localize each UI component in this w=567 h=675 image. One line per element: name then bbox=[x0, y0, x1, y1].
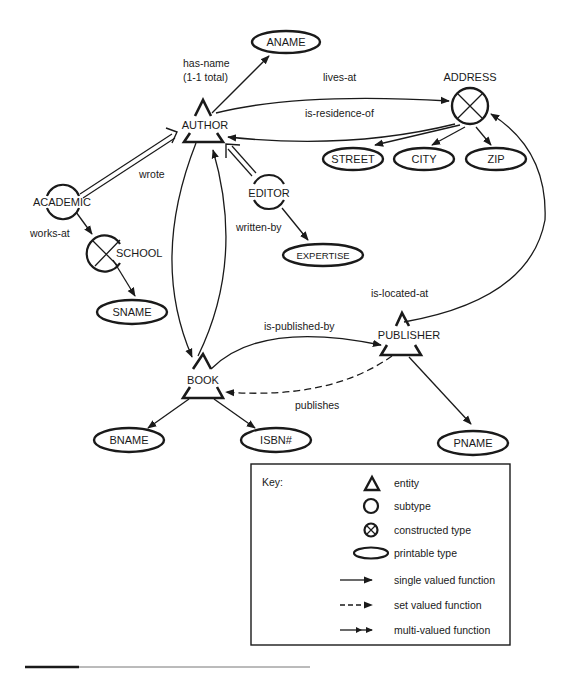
label-works-at: works-at bbox=[29, 227, 70, 239]
node-expertise-label: EXPERTISE bbox=[296, 250, 349, 261]
node-academic[interactable]: ACADEMIC bbox=[33, 185, 91, 220]
functional-data-model-diagram: has-name (1-1 total) lives-at is-residen… bbox=[0, 0, 567, 675]
legend-label-constructed-type: constructed type bbox=[394, 524, 471, 536]
edge-written-by bbox=[198, 150, 226, 356]
label-wrote: wrote bbox=[138, 168, 165, 180]
entity-icon bbox=[396, 313, 409, 326]
edge-address-city bbox=[432, 127, 465, 145]
edge-editor-expertise bbox=[282, 208, 308, 240]
node-street[interactable]: STREET bbox=[323, 148, 383, 170]
node-school[interactable]: SCHOOL bbox=[87, 236, 163, 272]
node-isbn-label: ISBN# bbox=[260, 434, 293, 446]
label-is-residence-of: is-residence-of bbox=[305, 107, 374, 119]
node-isbn[interactable]: ISBN# bbox=[241, 428, 311, 452]
subtype-icon bbox=[47, 185, 79, 196]
legend: Key: entity subtype constructed type pri… bbox=[251, 464, 510, 645]
subtype-arrows bbox=[80, 128, 256, 198]
entity-icon bbox=[195, 100, 211, 116]
node-academic-label: ACADEMIC bbox=[33, 196, 91, 208]
node-author-label: AUTHOR bbox=[182, 119, 229, 131]
label-written-by: written-by bbox=[235, 221, 282, 233]
node-zip-label: ZIP bbox=[487, 153, 504, 165]
node-sname[interactable]: SNAME bbox=[97, 300, 167, 324]
edge-address-street bbox=[375, 125, 460, 145]
node-city[interactable]: CITY bbox=[394, 148, 454, 170]
label-has-name: has-name bbox=[183, 57, 230, 69]
legend-label-subtype: subtype bbox=[394, 500, 431, 512]
legend-label-printable-type: printable type bbox=[394, 547, 457, 559]
node-editor-label: EDITOR bbox=[248, 187, 289, 199]
node-bname[interactable]: BNAME bbox=[94, 428, 164, 452]
node-pname-label: PNAME bbox=[453, 437, 492, 449]
crossed-circle-icon bbox=[87, 236, 120, 272]
node-street-label: STREET bbox=[331, 153, 375, 165]
node-aname-label: ANAME bbox=[266, 36, 305, 48]
subtype-arrow-editor-author bbox=[226, 144, 256, 176]
edge-is-residence-of bbox=[228, 124, 455, 141]
subtype-icon bbox=[254, 175, 284, 184]
node-author[interactable]: AUTHOR bbox=[182, 100, 229, 142]
node-publisher[interactable]: PUBLISHER bbox=[378, 313, 440, 355]
edge-publisher-pname bbox=[409, 357, 471, 424]
node-expertise[interactable]: EXPERTISE bbox=[283, 244, 363, 266]
node-city-label: CITY bbox=[411, 153, 437, 165]
node-aname[interactable]: ANAME bbox=[252, 31, 320, 53]
legend-title: Key: bbox=[262, 476, 283, 488]
node-book-label: BOOK bbox=[187, 374, 219, 386]
edge-book-bname bbox=[148, 399, 189, 428]
edge-book-isbn bbox=[214, 399, 255, 428]
edge-publishes bbox=[226, 356, 392, 393]
edge-is-published-by bbox=[211, 337, 381, 369]
label-is-published-by: is-published-by bbox=[264, 320, 335, 332]
node-zip[interactable]: ZIP bbox=[466, 148, 526, 170]
label-publishes: publishes bbox=[295, 399, 339, 411]
subtype-arrow-academic-author bbox=[80, 128, 177, 198]
node-address[interactable]: ADDRESS bbox=[443, 71, 496, 124]
node-publisher-label: PUBLISHER bbox=[378, 329, 440, 341]
edge-school-sname bbox=[113, 260, 135, 296]
node-editor[interactable]: EDITOR bbox=[248, 175, 289, 209]
entity-icon bbox=[193, 354, 211, 369]
node-book[interactable]: BOOK bbox=[183, 354, 223, 398]
label-has-name-cardinality: (1-1 total) bbox=[183, 71, 228, 83]
legend-label-entity: entity bbox=[394, 477, 420, 489]
label-lives-at: lives-at bbox=[323, 71, 356, 83]
legend-label-set-valued: set valued function bbox=[394, 599, 482, 611]
node-sname-label: SNAME bbox=[112, 306, 151, 318]
node-pname[interactable]: PNAME bbox=[438, 431, 508, 455]
label-is-located-at: is-located-at bbox=[371, 287, 428, 299]
edge-address-zip bbox=[476, 127, 491, 145]
edge-wrote bbox=[172, 143, 196, 357]
legend-label-single-valued: single valued function bbox=[394, 574, 495, 586]
node-school-label: SCHOOL bbox=[116, 247, 162, 259]
node-bname-label: BNAME bbox=[109, 434, 148, 446]
legend-label-multi-valued: multi-valued function bbox=[394, 624, 490, 636]
edge-works-at bbox=[76, 212, 92, 234]
node-address-label: ADDRESS bbox=[443, 71, 496, 83]
